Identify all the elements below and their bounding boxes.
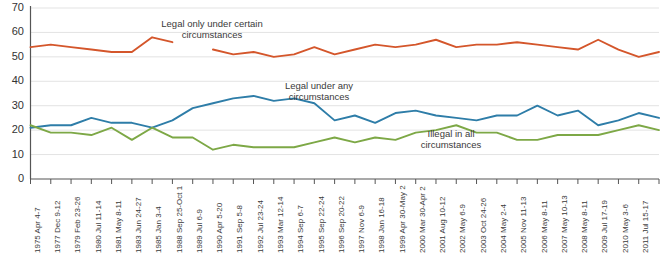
x-tick-label-3: 1980 Jul 11-14 <box>95 201 103 253</box>
annotation-line-2: circumstances <box>142 29 282 40</box>
annotation-line-2: circumstances <box>393 139 509 150</box>
x-tick-label-12: 1993 Mar 12-14 <box>277 197 285 253</box>
line-chart: 010203040506070 1975 Apr 4-71977 Dec 9-1… <box>0 0 662 256</box>
x-tick-label-18: 1999 Apr 30-May 2 <box>399 185 407 253</box>
x-tick-label-15: 1996 Sep 20-22 <box>338 196 346 253</box>
annotation-line-1: Illegal in all <box>393 128 509 139</box>
annotation-line-1: Legal under any <box>258 80 380 91</box>
x-tick-label-24: 2005 Nov 11-13 <box>520 197 528 253</box>
x-tick-label-8: 1989 Jul 6-9 <box>196 209 204 253</box>
x-tick-label-4: 1981 May 8-11 <box>115 200 123 253</box>
x-tick-label-25: 2006 May 8-11 <box>541 200 549 253</box>
annotation-illegal-in-all: Illegal in all circumstances <box>393 128 509 150</box>
x-tick-label-23: 2004 May 2-4 <box>500 204 508 253</box>
x-tick-label-13: 1994 Sep 6-7 <box>297 205 305 253</box>
x-tick-label-16: 1997 Nov 6-9 <box>358 205 366 253</box>
x-tick-label-27: 2008 May 8-11 <box>581 200 589 253</box>
annotation-line-1: Legal only under certain <box>142 18 282 29</box>
annotation-line-2: circumstances <box>258 91 380 102</box>
series-line-0 <box>213 40 659 57</box>
x-tick-label-0: 1975 Apr 4-7 <box>34 207 42 253</box>
x-tick-label-20: 2001 Aug 10-12 <box>439 197 447 254</box>
x-tick-label-29: 2010 May 3-6 <box>622 204 630 253</box>
x-tick-label-7: 1988 Sep 25-Oct 1 <box>176 186 184 253</box>
x-tick-label-22: 2003 Oct 24-26 <box>480 198 488 253</box>
series-line-2 <box>31 125 660 149</box>
x-tick-label-28: 2009 Jul 17-19 <box>601 200 609 253</box>
x-tick-label-14: 1995 Sep 22-24 <box>318 196 326 253</box>
x-tick-label-17: 1998 Jan 16-18 <box>378 197 386 253</box>
x-tick-label-9: 1990 Apr 5-20 <box>216 203 224 253</box>
x-tick-label-26: 2007 May 10-13 <box>561 195 569 253</box>
x-tick-label-11: 1992 Jul 23-24 <box>257 200 265 253</box>
annotation-legal-only-under-certain: Legal only under certain circumstances <box>142 18 282 40</box>
annotation-legal-under-any: Legal under any circumstances <box>258 80 380 102</box>
x-tick-label-1: 1977 Dec 9-12 <box>54 201 62 253</box>
x-tick-label-10: 1991 Sep 5-8 <box>236 205 244 253</box>
x-tick-label-19: 2000 Mar 30-Apr 2 <box>419 186 427 253</box>
x-tick-label-30: 2011 Jul 15-17 <box>642 201 650 253</box>
x-tick-label-6: 1985 Jan 3-4 <box>155 206 163 253</box>
x-tick-label-2: 1979 Feb 23-26 <box>74 197 82 254</box>
x-tick-label-21: 2002 May 6-9 <box>459 204 467 253</box>
x-tick-label-5: 1983 Jun 24-27 <box>135 197 143 253</box>
